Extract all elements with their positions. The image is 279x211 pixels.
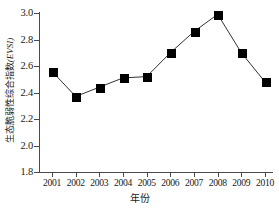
data-point-marker: [214, 11, 223, 20]
x-axis-title: 年份: [0, 190, 279, 205]
data-point-marker: [72, 93, 81, 102]
data-point-marker: [191, 28, 200, 37]
series-line: [0, 0, 279, 211]
data-point-marker: [262, 78, 271, 87]
y-axis-title-cn: 生态脆弱性综合指数: [5, 62, 15, 143]
y-axis-title-symbol: (EVSI): [5, 38, 15, 63]
y-axis-title: 生态脆弱性综合指数(EVSI): [3, 16, 16, 166]
data-point-marker: [143, 73, 152, 82]
data-point-marker: [167, 49, 176, 58]
data-point-marker: [120, 74, 129, 83]
chart-figure: 1.82.02.22.42.62.83.0 200120022003200420…: [0, 0, 279, 211]
data-point-marker: [96, 84, 105, 93]
data-point-marker: [238, 49, 247, 58]
data-point-marker: [49, 68, 58, 77]
